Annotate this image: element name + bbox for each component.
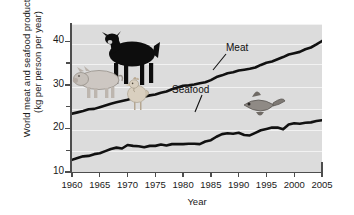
y-axis-line — [70, 23, 72, 173]
seafood-series-label: Seafood — [172, 84, 209, 95]
y-tick-label: 30 — [24, 78, 64, 89]
y-tick-minor — [66, 106, 70, 107]
annotation-leaders — [72, 24, 322, 172]
y-tick-label: 40 — [24, 34, 64, 45]
x-tick — [155, 172, 156, 177]
y-tick-label: 10 — [24, 165, 64, 176]
x-tick-label: 1965 — [85, 179, 115, 190]
y-tick-minor — [66, 62, 70, 63]
x-tick-label: 1960 — [57, 179, 87, 190]
chart-figure: World meat and seafood production (kg pe… — [0, 0, 354, 215]
x-axis-label: Year — [72, 196, 322, 207]
meat-leader-line — [213, 54, 226, 70]
plot-area: Meat Seafood — [72, 24, 322, 172]
x-tick-label: 2000 — [279, 179, 309, 190]
x-tick — [294, 172, 295, 177]
y-tick — [65, 171, 70, 172]
x-tick — [210, 172, 211, 177]
x-tick-label: 1980 — [168, 179, 198, 190]
y-tick-label: 20 — [24, 121, 64, 132]
x-tick-label: 1970 — [113, 179, 143, 190]
x-tick-label: 1990 — [224, 179, 254, 190]
meat-series-label: Meat — [226, 42, 248, 53]
x-tick-label: 1985 — [196, 179, 226, 190]
y-tick-minor — [66, 150, 70, 151]
x-tick — [266, 172, 267, 177]
x-tick — [321, 172, 322, 177]
x-tick — [238, 172, 239, 177]
x-tick-label: 1995 — [251, 179, 281, 190]
x-tick — [99, 172, 100, 177]
y-axis-label-line1: World meat and seafood production — [21, 0, 33, 137]
y-tick — [65, 41, 70, 42]
x-tick-label: 2005 — [307, 179, 337, 190]
x-tick — [182, 172, 183, 177]
x-tick — [127, 172, 128, 177]
x-tick-label: 1975 — [140, 179, 170, 190]
x-axis-line — [70, 172, 323, 174]
seafood-leader-line — [195, 95, 202, 112]
y-axis-label-line2: (kg per person per year) — [32, 11, 44, 113]
x-tick — [71, 172, 72, 177]
y-tick — [65, 84, 70, 85]
y-tick — [65, 128, 70, 129]
